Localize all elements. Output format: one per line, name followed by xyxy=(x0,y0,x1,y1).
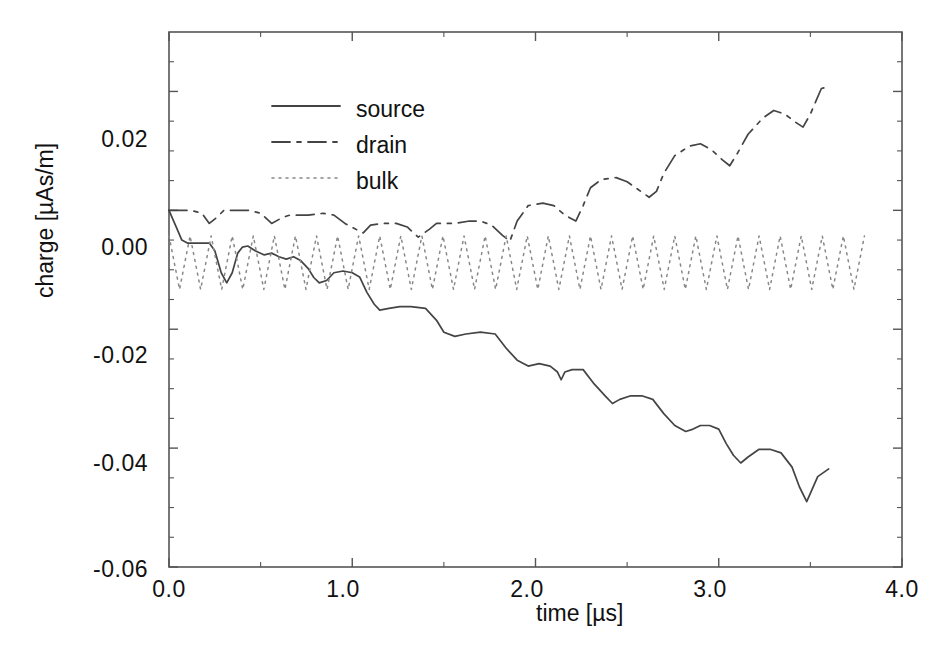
legend-label-drain: drain xyxy=(356,132,407,159)
xtick-label-2: 2.0 xyxy=(487,576,567,603)
legend-sample-lines xyxy=(272,106,340,178)
ytick-label-2: -0.02 xyxy=(33,342,148,369)
series-line-drain xyxy=(169,87,829,242)
chart-plot-area xyxy=(0,0,944,649)
xtick-label-3: 3.0 xyxy=(670,576,750,603)
legend-label-bulk: bulk xyxy=(356,168,398,195)
y-axis-title: charge [µAs/m] xyxy=(32,143,59,298)
axis-ticks xyxy=(169,32,902,567)
data-series xyxy=(169,87,864,502)
x-axis-title: time [µs] xyxy=(536,600,623,627)
xtick-label-4: 4.0 xyxy=(862,576,942,603)
chart-figure: 0.02 0.00 -0.02 -0.04 -0.06 0.0 1.0 2.0 … xyxy=(0,0,944,649)
ytick-label-3: -0.04 xyxy=(33,450,148,477)
legend-label-source: source xyxy=(356,96,425,123)
xtick-label-0: 0.0 xyxy=(129,576,209,603)
series-line-source xyxy=(169,210,829,501)
xtick-label-1: 1.0 xyxy=(303,576,383,603)
series-line-bulk xyxy=(169,236,864,290)
axis-frame xyxy=(169,32,902,567)
